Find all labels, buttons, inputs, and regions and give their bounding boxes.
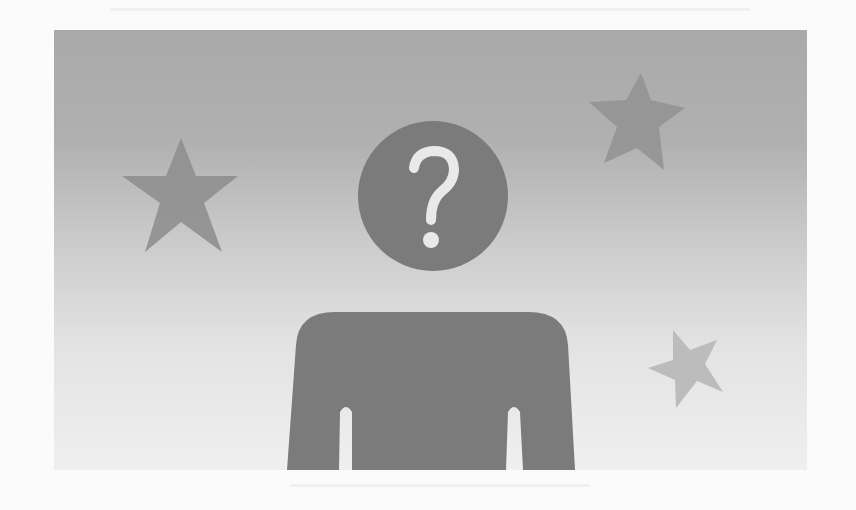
anonymous-person-illustration xyxy=(54,30,807,470)
scanned-page xyxy=(0,0,856,510)
torso-silhouette xyxy=(287,312,575,470)
bleed-through-line xyxy=(290,484,590,487)
bleed-through-line xyxy=(110,8,750,11)
